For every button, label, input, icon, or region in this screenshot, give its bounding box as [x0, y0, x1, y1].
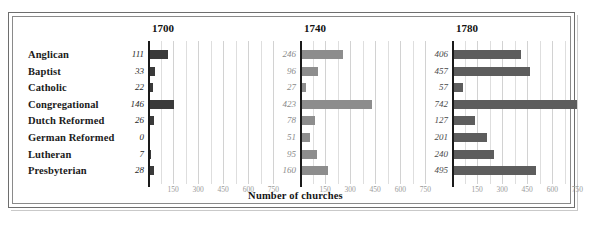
- value-label-1780-dutch-reformed: 127: [414, 115, 448, 125]
- gridline-1780-675: [565, 41, 566, 184]
- gridline-1700-375: [211, 41, 212, 184]
- gridline-1780-300: [502, 41, 503, 184]
- bar-1780-baptist: [454, 67, 530, 76]
- bar-1700-lutheran: [150, 150, 151, 159]
- value-label-1780-catholic: 57: [414, 82, 448, 92]
- value-label-1780-lutheran: 240: [414, 149, 448, 159]
- gridline-1700-75: [161, 41, 162, 184]
- gridline-1700-150: [173, 41, 174, 184]
- bar-1740-baptist: [302, 67, 318, 76]
- bar-1740-catholic: [302, 83, 307, 92]
- value-label-1740-dutch-reformed: 78: [262, 115, 296, 125]
- gridline-1700-600: [248, 41, 249, 184]
- value-label-1700-anglican: 111: [110, 49, 144, 59]
- gridline-1700-525: [236, 41, 237, 184]
- bar-1700-anglican: [150, 50, 169, 59]
- gridline-1740-750: [425, 41, 426, 184]
- gridline-1740-375: [363, 41, 364, 184]
- bar-1740-dutch-reformed: [302, 116, 315, 125]
- gridline-1740-225: [338, 41, 339, 184]
- value-label-1700-presbyterian: 28: [110, 165, 144, 175]
- gridline-1740-150: [325, 41, 326, 184]
- value-label-1700-german-reformed: 0: [110, 132, 144, 142]
- gridline-1780-450: [527, 41, 528, 184]
- bar-1700-congregational: [150, 100, 174, 109]
- bar-1700-baptist: [150, 67, 156, 76]
- bar-1740-presbyterian: [302, 166, 329, 175]
- value-label-1780-presbyterian: 495: [414, 165, 448, 175]
- bar-1780-presbyterian: [454, 166, 537, 175]
- gridline-1700-450: [223, 41, 224, 184]
- value-label-1740-presbyterian: 160: [262, 165, 296, 175]
- value-label-1700-catholic: 22: [110, 82, 144, 92]
- bar-1700-catholic: [150, 83, 154, 92]
- gridline-1780-75: [465, 41, 466, 184]
- gridline-1780-375: [515, 41, 516, 184]
- bar-1780-lutheran: [454, 150, 494, 159]
- gridline-1740-675: [413, 41, 414, 184]
- value-label-1700-lutheran: 7: [110, 149, 144, 159]
- gridline-1780-525: [540, 41, 541, 184]
- gridline-1740-600: [400, 41, 401, 184]
- gridline-1700-675: [261, 41, 262, 184]
- value-label-1700-baptist: 33: [110, 66, 144, 76]
- value-label-1780-anglican: 406: [414, 49, 448, 59]
- value-label-1780-congregational: 742: [414, 99, 448, 109]
- gridline-1740-450: [375, 41, 376, 184]
- value-label-1780-german-reformed: 201: [414, 132, 448, 142]
- bar-1780-german-reformed: [454, 133, 488, 142]
- value-label-1740-anglican: 246: [262, 49, 296, 59]
- bar-1740-congregational: [302, 100, 373, 109]
- value-label-1740-catholic: 27: [262, 82, 296, 92]
- value-label-1740-congregational: 423: [262, 99, 296, 109]
- gridline-1700-300: [198, 41, 199, 184]
- value-label-1740-baptist: 96: [262, 66, 296, 76]
- bar-1780-anglican: [454, 50, 522, 59]
- panel-title-1700: 1700: [152, 22, 174, 34]
- x-axis-caption: Number of churches: [0, 190, 591, 201]
- gridline-1740-525: [388, 41, 389, 184]
- y-axis-1700: [148, 41, 150, 187]
- gridline-1700-750: [273, 41, 274, 184]
- gridline-1780-600: [552, 41, 553, 184]
- value-label-1700-congregational: 146: [110, 99, 144, 109]
- gridline-1780-225: [490, 41, 491, 184]
- y-axis-1740: [300, 41, 302, 187]
- gridline-1740-75: [313, 41, 314, 184]
- bar-1740-anglican: [302, 50, 343, 59]
- bar-1700-presbyterian: [150, 166, 155, 175]
- bar-1740-lutheran: [302, 150, 318, 159]
- panel-title-1740: 1740: [304, 22, 326, 34]
- value-label-1740-german-reformed: 51: [262, 132, 296, 142]
- value-label-1700-dutch-reformed: 26: [110, 115, 144, 125]
- gridline-1700-225: [186, 41, 187, 184]
- gridline-1780-750: [577, 41, 578, 184]
- gridline-1780-150: [477, 41, 478, 184]
- bar-1740-german-reformed: [302, 133, 311, 142]
- church-counts-chart: AnglicanBaptistCatholicCongregationalDut…: [0, 0, 591, 232]
- value-label-1740-lutheran: 95: [262, 149, 296, 159]
- bar-1780-dutch-reformed: [454, 116, 475, 125]
- bar-1700-dutch-reformed: [150, 116, 154, 125]
- panel-title-1780: 1780: [456, 22, 478, 34]
- bar-1780-catholic: [454, 83, 464, 92]
- y-axis-1780: [452, 41, 454, 187]
- gridline-1740-300: [350, 41, 351, 184]
- value-label-1780-baptist: 457: [414, 66, 448, 76]
- bar-1780-congregational: [454, 100, 578, 109]
